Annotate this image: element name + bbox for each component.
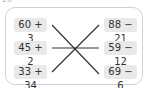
left-expression-3[interactable]: 33 + 34 (14, 65, 47, 79)
right-expression-2[interactable]: 59 − 12 (104, 41, 137, 55)
right-expression-3[interactable]: 69 − 6 (104, 65, 137, 79)
left-expression-1[interactable]: 60 + 3 (14, 18, 47, 32)
right-expression-1[interactable]: 88 − 21 (104, 18, 137, 32)
left-expression-2[interactable]: 45 + 2 (14, 41, 47, 55)
